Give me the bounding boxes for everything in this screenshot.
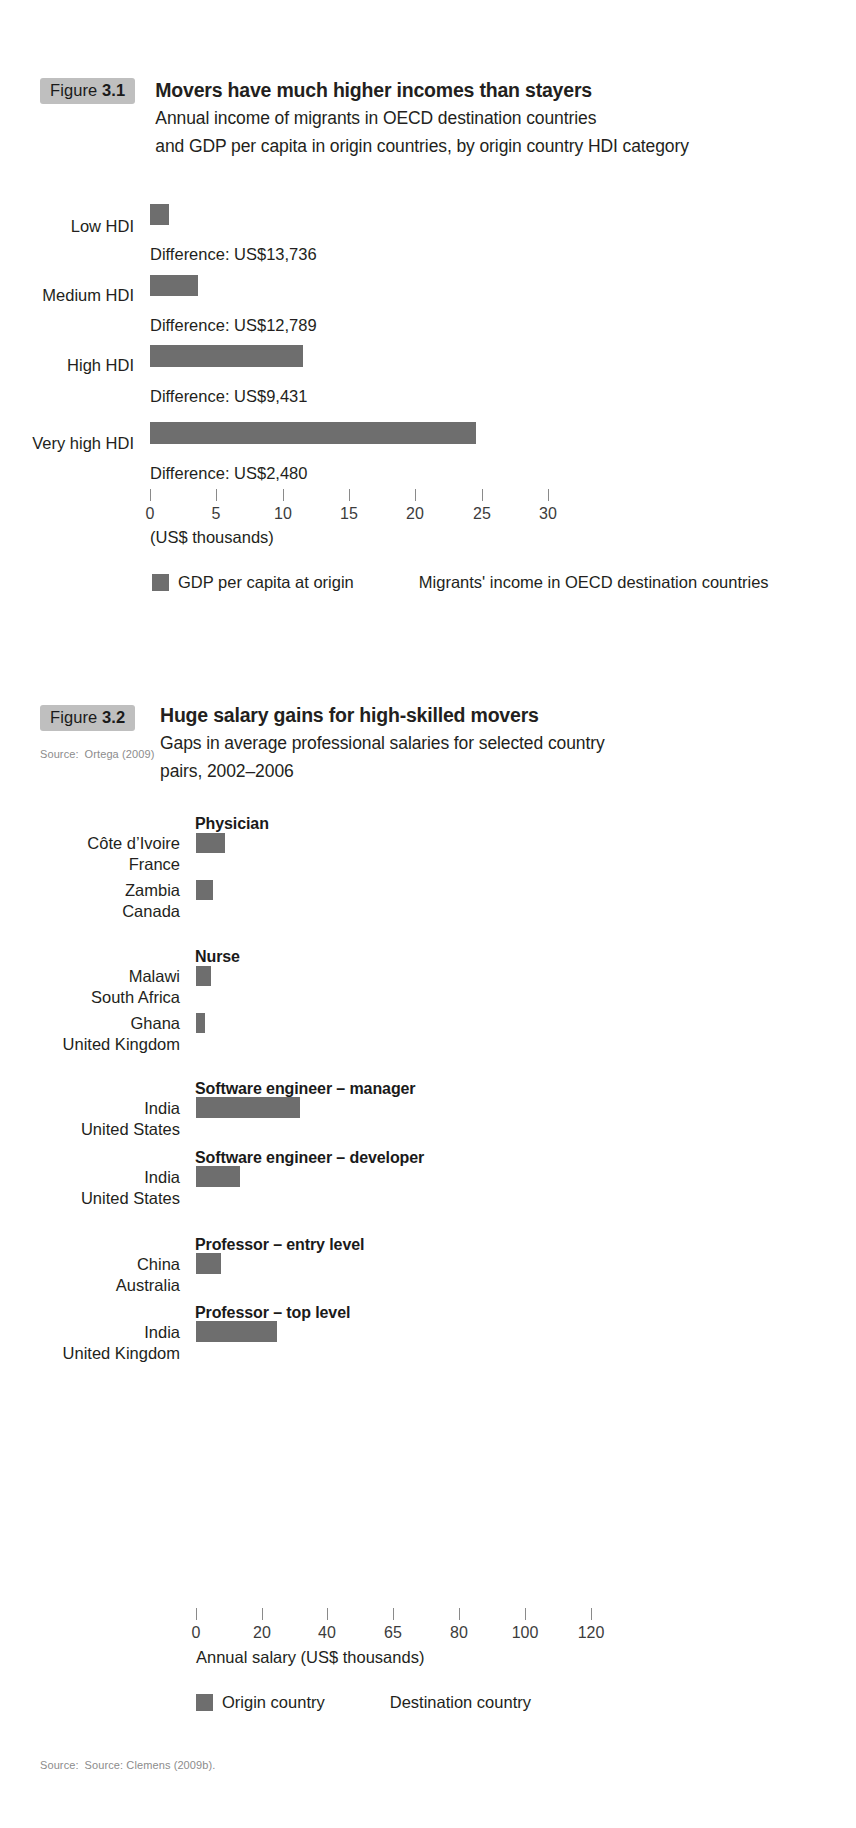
figure-3-2-title: Huge salary gains for high-skilled mover…	[160, 703, 605, 728]
bar-sw-manager-india-origin	[196, 1097, 300, 1118]
row-destination-label-united-states-sw-manager: United States	[0, 1119, 180, 1140]
figure-3-2-chart: Huge salary gains for high-skilled mover…	[0, 0, 856, 1828]
axis2-tick-label-40: 40	[307, 1624, 347, 1642]
row-origin-label-malawi: Malawi	[0, 966, 180, 987]
group-title-physician: Physician	[195, 815, 269, 833]
row-origin-label-india-sw-manager: India	[0, 1098, 180, 1119]
row-origin-label-china: China	[0, 1254, 180, 1275]
axis2-tick-label-65: 65	[373, 1624, 413, 1642]
row-origin-label-zambia: Zambia	[0, 880, 180, 901]
axis2-tick-80	[459, 1608, 460, 1620]
row-destination-label-canada: Canada	[0, 901, 180, 922]
group-title-software-engineer-manager: Software engineer – manager	[195, 1080, 416, 1098]
group-title-professor-top-level: Professor – top level	[195, 1304, 350, 1322]
legend2-label-destination: Destination country	[390, 1693, 531, 1712]
axis2-tick-20	[262, 1608, 263, 1620]
row-origin-label-india-sw-developer: India	[0, 1167, 180, 1188]
axis2-tick-label-80: 80	[439, 1624, 479, 1642]
bar-professor-entry-china-origin	[196, 1253, 221, 1274]
row-destination-label-france: France	[0, 854, 180, 875]
axis2-tick-40	[327, 1608, 328, 1620]
axis2-tick-120	[591, 1608, 592, 1620]
figure-3-2-source-text: Source: Clemens (2009b).	[85, 1759, 216, 1771]
bar-sw-developer-india-origin	[196, 1166, 240, 1187]
group-title-professor-entry-level: Professor – entry level	[195, 1236, 364, 1254]
row-destination-label-united-kingdom-professor: United Kingdom	[0, 1343, 180, 1364]
figure-3-2-source-label: Source:	[40, 1759, 79, 1771]
row-destination-label-united-kingdom-nurse: United Kingdom	[0, 1034, 180, 1055]
row-origin-label-cote-divoire: Côte d’Ivoire	[0, 833, 180, 854]
figure-3-2-axis-caption: Annual salary (US$ thousands)	[196, 1648, 424, 1667]
figure-3-2-subtitle-line-2: pairs, 2002–2006	[160, 759, 605, 784]
axis2-tick-label-100: 100	[505, 1624, 545, 1642]
group-title-nurse: Nurse	[195, 948, 240, 966]
bar-nurse-malawi-origin	[196, 966, 211, 986]
axis2-tick-65	[393, 1608, 394, 1620]
figure-3-2-legend: Origin country Destination country	[196, 1693, 531, 1712]
row-origin-label-india-professor: India	[0, 1322, 180, 1343]
axis2-tick-label-120: 120	[571, 1624, 611, 1642]
axis2-tick-label-0: 0	[176, 1624, 216, 1642]
legend2-swatch-origin-icon	[196, 1694, 213, 1711]
legend2-label-origin: Origin country	[222, 1693, 325, 1712]
row-origin-label-ghana: Ghana	[0, 1013, 180, 1034]
legend2-swatch-destination-icon	[373, 1694, 390, 1711]
axis2-tick-label-20: 20	[242, 1624, 282, 1642]
figure-3-2-titles: Huge salary gains for high-skilled mover…	[160, 703, 605, 785]
page-root: Figure 3.1 Movers have much higher incom…	[0, 0, 856, 1828]
bar-physician-zambia-origin	[196, 880, 213, 900]
bar-professor-top-india-origin	[196, 1321, 277, 1342]
row-destination-label-united-states-sw-developer: United States	[0, 1188, 180, 1209]
bar-nurse-ghana-origin	[196, 1013, 205, 1033]
group-title-software-engineer-developer: Software engineer – developer	[195, 1149, 424, 1167]
axis2-tick-100	[525, 1608, 526, 1620]
bar-physician-cote-divoire-origin	[196, 833, 225, 853]
figure-3-2-source: Source:Source: Clemens (2009b).	[40, 1759, 215, 1771]
axis2-tick-0	[196, 1608, 197, 1620]
row-destination-label-australia: Australia	[0, 1275, 180, 1296]
figure-3-2-subtitle-line-1: Gaps in average professional salaries fo…	[160, 731, 605, 756]
row-destination-label-south-africa: South Africa	[0, 987, 180, 1008]
